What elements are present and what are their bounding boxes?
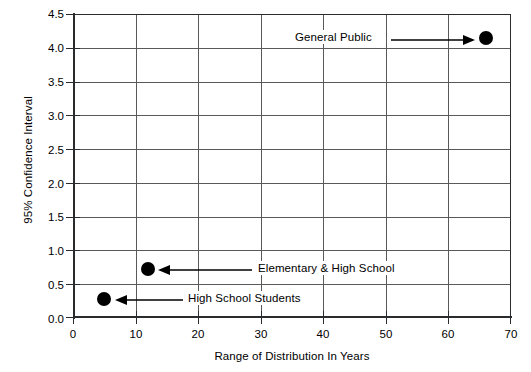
data-point-high-school-students — [97, 292, 111, 306]
gridline-vertical — [448, 14, 449, 318]
y-tick-label: 4.5 — [30, 9, 64, 21]
x-tick-label: 50 — [366, 329, 406, 341]
data-point-general-public — [479, 31, 493, 45]
x-tick-label: 10 — [116, 329, 156, 341]
y-tick-mark — [66, 250, 80, 251]
annotation-elementary-high-school: Elementary & High School — [256, 263, 397, 275]
x-tick-mark — [448, 311, 449, 324]
x-tick-mark — [323, 311, 324, 324]
plot-area: General Public Elementary & High School … — [73, 14, 511, 318]
arrow-left-icon — [158, 262, 254, 278]
y-tick-label: 2.0 — [30, 179, 64, 191]
y-tick-mark — [66, 183, 80, 184]
y-tick-mark — [66, 14, 80, 15]
gridline-horizontal — [73, 48, 511, 49]
axis-top — [73, 14, 511, 15]
y-tick-mark — [66, 217, 80, 218]
y-tick-mark — [66, 284, 80, 285]
y-tick-mark — [66, 149, 80, 150]
annotation-high-school-students: High School Students — [186, 293, 303, 305]
y-axis-line — [73, 13, 75, 319]
x-tick-label: 70 — [491, 329, 531, 341]
x-tick-mark — [261, 311, 262, 324]
x-tick-label: 60 — [428, 329, 468, 341]
annotation-label: General Public — [293, 30, 374, 44]
x-tick-mark — [510, 311, 511, 324]
x-tick-mark — [386, 311, 387, 324]
axis-right — [510, 14, 511, 318]
y-tick-mark — [66, 48, 80, 49]
x-tick-label: 30 — [241, 329, 281, 341]
y-tick-mark — [66, 82, 80, 83]
scatter-chart-figure: 95% Confidence Interval 4.5 4.0 3.5 3.0 … — [0, 0, 531, 372]
x-tick-label: 0 — [53, 329, 93, 341]
gridline-horizontal — [73, 217, 511, 218]
gridline-horizontal — [73, 250, 511, 251]
x-axis-title: Range of Distribution In Years — [73, 350, 511, 362]
y-tick-label: 0.5 — [30, 280, 64, 292]
x-axis-line — [73, 316, 512, 318]
gridline-horizontal — [73, 115, 511, 116]
x-tick-mark — [136, 311, 137, 324]
x-tick-label: 40 — [303, 329, 343, 341]
gridline-vertical — [136, 14, 137, 318]
x-tick-label: 20 — [178, 329, 218, 341]
x-tick-mark — [73, 311, 74, 324]
data-point-elementary-high-school — [141, 262, 155, 276]
annotation-label: High School Students — [186, 291, 303, 305]
gridline-horizontal — [73, 284, 511, 285]
annotation-label: Elementary & High School — [256, 261, 397, 275]
y-tick-label: 4.0 — [30, 43, 64, 55]
y-tick-mark — [66, 115, 80, 116]
y-tick-label: 1.5 — [30, 212, 64, 224]
annotation-general-public: General Public — [293, 32, 374, 44]
x-axis-tick-labels: 0 10 20 30 40 50 60 70 — [0, 329, 531, 349]
gridline-horizontal — [73, 149, 511, 150]
y-axis-tick-labels: 4.5 4.0 3.5 3.0 2.5 2.0 1.5 1.0 0.5 0.0 — [0, 0, 64, 372]
x-tick-mark — [198, 311, 199, 324]
arrow-right-icon — [391, 32, 477, 48]
arrow-left-icon — [115, 292, 185, 308]
gridline-horizontal — [73, 183, 511, 184]
gridline-horizontal — [73, 82, 511, 83]
y-tick-label: 3.0 — [30, 111, 64, 123]
y-tick-label: 2.5 — [30, 145, 64, 157]
y-tick-label: 1.0 — [30, 246, 64, 258]
y-tick-label: 3.5 — [30, 77, 64, 89]
y-tick-label: 0.0 — [30, 314, 64, 326]
